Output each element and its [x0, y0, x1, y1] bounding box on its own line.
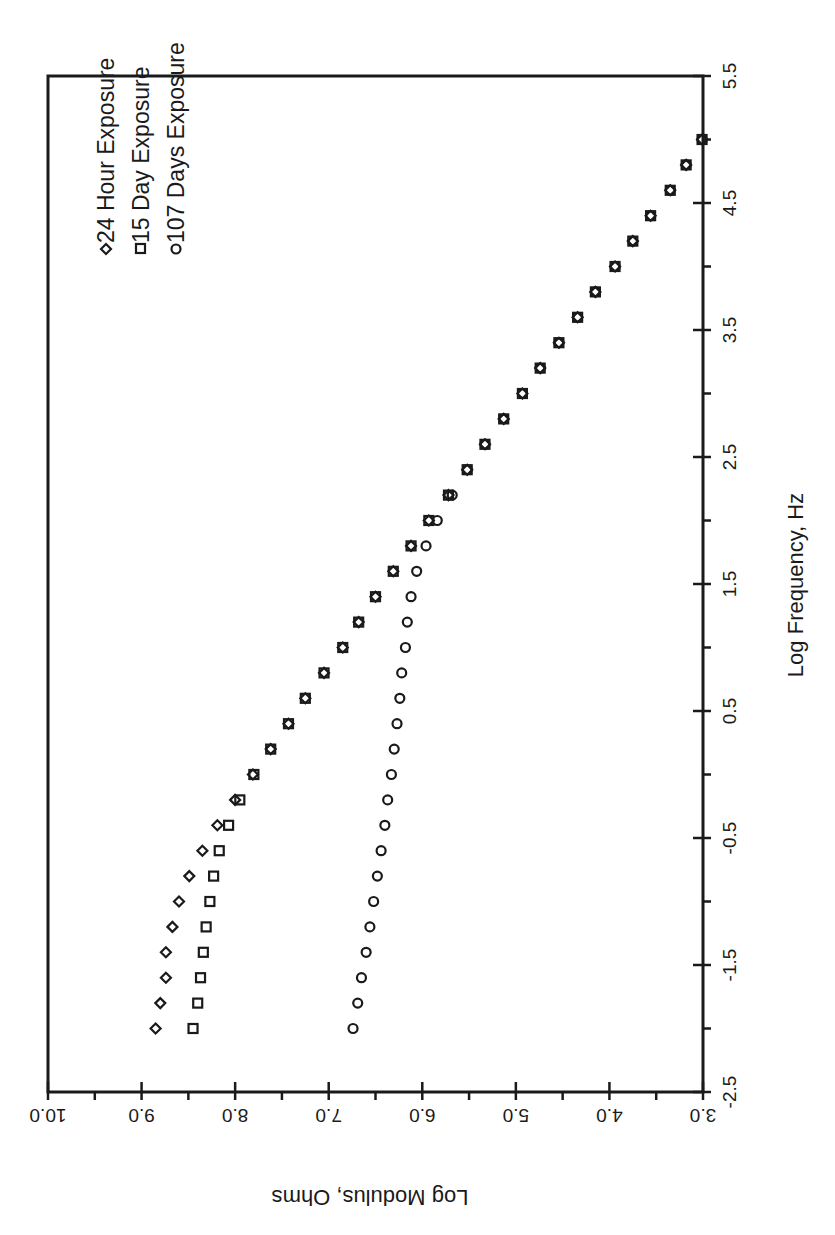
circle-marker — [463, 465, 472, 474]
diamond-marker — [167, 922, 177, 932]
circle-marker — [536, 364, 545, 373]
circle-marker — [393, 719, 402, 728]
y-axis-title: Log Modulus, Ohms — [272, 1185, 469, 1210]
x-tick-label: 1.5 — [719, 571, 740, 597]
legend-label: 15 Day Exposure — [128, 67, 154, 243]
diamond-marker — [161, 973, 171, 983]
circle-marker — [412, 567, 421, 576]
square-marker — [215, 846, 224, 855]
circle-marker — [518, 389, 527, 398]
square-marker — [199, 948, 208, 957]
legend-label: 107 Days Exposure — [163, 42, 189, 243]
x-tick-label: 5.5 — [719, 63, 740, 89]
circle-marker — [373, 872, 382, 881]
legend-label: 24 Hour Exposure — [93, 58, 119, 243]
log-modulus-axis: 3.04.05.06.07.08.09.010.0 — [30, 1082, 717, 1126]
circle-marker — [349, 1024, 358, 1033]
square-marker — [205, 897, 214, 906]
circle-marker — [480, 440, 489, 449]
circle-marker — [377, 846, 386, 855]
circle-marker — [383, 795, 392, 804]
circle-marker — [573, 313, 582, 322]
circle-marker — [666, 186, 675, 195]
y-tick-label: 4.0 — [596, 1105, 622, 1126]
circle-marker — [628, 237, 637, 246]
circle-marker — [499, 414, 508, 423]
x-tick-label: -0.5 — [719, 822, 740, 855]
diamond-icon — [101, 244, 111, 254]
square-marker — [189, 1024, 198, 1033]
y-tick-label: 7.0 — [316, 1105, 342, 1126]
x-axis-title: Log Frequency, Hz — [783, 493, 808, 677]
circle-marker — [387, 770, 396, 779]
circle-marker — [401, 643, 410, 652]
x-tick-label: 2.5 — [719, 444, 740, 470]
diamond-marker — [151, 1024, 161, 1034]
diamond-marker — [174, 897, 184, 907]
square-marker — [196, 973, 205, 982]
x-tick-label: 0.5 — [719, 698, 740, 724]
diamond-marker — [212, 820, 222, 830]
circle-marker — [407, 592, 416, 601]
circle-marker — [554, 338, 563, 347]
square-marker — [209, 872, 218, 881]
circle-icon — [172, 245, 181, 254]
circle-marker — [357, 973, 366, 982]
circle-marker — [422, 541, 431, 550]
series-circle — [349, 135, 707, 1033]
y-tick-label: 6.0 — [409, 1105, 435, 1126]
circle-marker — [403, 618, 412, 627]
square-marker — [202, 922, 211, 931]
circle-marker — [362, 948, 371, 957]
y-tick-label: 8.0 — [222, 1105, 248, 1126]
circle-marker — [380, 821, 389, 830]
diamond-marker — [197, 846, 207, 856]
diamond-marker — [184, 871, 194, 881]
x-tick-label: 3.5 — [719, 317, 740, 343]
y-tick-label: 3.0 — [690, 1105, 716, 1126]
circle-marker — [591, 287, 600, 296]
circle-marker — [390, 745, 399, 754]
x-tick-label: -2.5 — [719, 1076, 740, 1109]
square-marker — [224, 821, 233, 830]
square-marker — [193, 999, 202, 1008]
legend: 24 Hour Exposure 15 Day Exposure 107 Day… — [93, 42, 189, 254]
square-icon — [136, 244, 145, 253]
diamond-marker — [155, 998, 165, 1008]
circle-marker — [397, 668, 406, 677]
log-frequency-axis: -2.5-1.5-0.50.51.52.53.54.55.5 — [693, 63, 740, 1109]
legend-item-24h: 24 Hour Exposure — [93, 58, 119, 254]
circle-marker — [682, 160, 691, 169]
circle-marker — [395, 694, 404, 703]
circle-marker — [369, 897, 378, 906]
series-square — [189, 135, 707, 1033]
data-points — [151, 135, 707, 1034]
circle-marker — [353, 999, 362, 1008]
circle-marker — [646, 211, 655, 220]
y-tick-label: 5.0 — [503, 1105, 529, 1126]
x-tick-label: -1.5 — [719, 949, 740, 982]
circle-marker — [611, 262, 620, 271]
x-tick-label: 4.5 — [719, 190, 740, 216]
diamond-marker — [161, 947, 171, 957]
circle-marker — [365, 922, 374, 931]
bode-modulus-chart: -2.5-1.5-0.50.51.52.53.54.55.5 3.04.05.0… — [0, 0, 835, 1235]
y-tick-label: 10.0 — [30, 1105, 67, 1126]
y-tick-label: 9.0 — [128, 1105, 154, 1126]
series-diamond — [151, 135, 707, 1034]
legend-item-107d: 107 Days Exposure — [163, 42, 189, 253]
legend-item-15d: 15 Day Exposure — [128, 67, 154, 253]
